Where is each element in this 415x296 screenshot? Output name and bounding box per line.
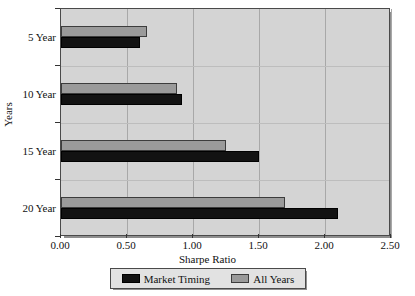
legend-entry: Market Timing (122, 273, 210, 285)
legend-swatch-icon (122, 274, 140, 283)
x-tick-mark (390, 234, 391, 238)
x-tick-mark (258, 234, 259, 238)
y-axis-title: Years (2, 85, 15, 145)
y-tick-label: 5 Year (0, 31, 56, 43)
y-tick-mark (55, 8, 60, 9)
x-tick-mark (60, 234, 61, 238)
x-tick-mark (324, 234, 325, 238)
y-tick-mark (55, 122, 60, 123)
x-tick-mark (192, 234, 193, 238)
x-tick-label: 1.50 (233, 239, 283, 251)
x-tick-label: 2.50 (365, 239, 415, 251)
x-axis-title: Sharpe Ratio (0, 253, 415, 266)
legend-swatch-icon (231, 274, 249, 283)
y-tick-label: 20 Year (0, 202, 56, 214)
chart-figure: 5 Year10 Year15 Year20 Year 0.000.501.00… (0, 0, 415, 296)
x-axis-ticks: 0.000.501.001.502.002.50 (0, 238, 415, 254)
legend-label: Market Timing (144, 273, 210, 285)
legend-entry: All Years (231, 273, 294, 285)
y-tick-mark (55, 65, 60, 66)
x-tick-label: 1.00 (167, 239, 217, 251)
x-tick-label: 2.00 (299, 239, 349, 251)
x-tick-label: 0.50 (101, 239, 151, 251)
legend-label: All Years (253, 273, 294, 285)
chart-legend: Market TimingAll Years (110, 268, 306, 289)
y-tick-mark (55, 179, 60, 180)
x-tick-mark (126, 234, 127, 238)
x-tick-label: 0.00 (35, 239, 85, 251)
y-tick-label: 15 Year (0, 145, 56, 157)
y-axis-ticks: 5 Year10 Year15 Year20 Year (0, 8, 415, 236)
